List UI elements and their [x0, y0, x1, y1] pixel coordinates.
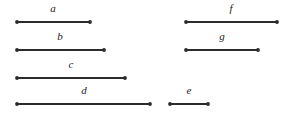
- segment-label-d: d: [81, 85, 87, 96]
- segment-endpoint-dot-f-end: [275, 20, 279, 24]
- segment-d: [15, 102, 152, 106]
- segment-endpoint-dot-g-start: [184, 48, 188, 52]
- segments-svg: [0, 0, 293, 118]
- segment-endpoint-dot-a-end: [88, 20, 92, 24]
- segment-b: [15, 48, 106, 52]
- segment-a: [15, 20, 92, 24]
- segment-endpoint-dot-d-end: [148, 102, 152, 106]
- segment-f: [184, 20, 279, 24]
- segment-endpoint-dot-e-start: [168, 102, 172, 106]
- segment-endpoint-dot-d-start: [15, 102, 19, 106]
- segment-endpoint-dot-e-end: [206, 102, 210, 106]
- segment-endpoint-dot-g-end: [256, 48, 260, 52]
- segment-label-c: c: [69, 59, 74, 70]
- segment-label-f: f: [229, 3, 232, 14]
- segment-endpoint-dot-a-start: [15, 20, 19, 24]
- segment-c: [15, 76, 127, 80]
- figure-canvas: abcdefg: [0, 0, 293, 118]
- segment-endpoint-dot-c-start: [15, 76, 19, 80]
- segment-endpoint-dot-f-start: [184, 20, 188, 24]
- segment-label-e: e: [187, 85, 192, 96]
- segment-endpoint-dot-b-end: [102, 48, 106, 52]
- segment-endpoint-dot-c-end: [123, 76, 127, 80]
- segment-label-a: a: [50, 3, 56, 14]
- segment-label-b: b: [57, 31, 63, 42]
- segment-label-g: g: [219, 31, 225, 42]
- segment-endpoint-dot-b-start: [15, 48, 19, 52]
- segment-g: [184, 48, 260, 52]
- segment-e: [168, 102, 210, 106]
